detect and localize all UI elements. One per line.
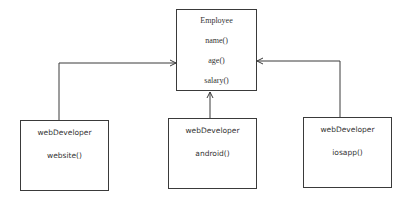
child-method: website() bbox=[21, 151, 108, 160]
child-title: webDeveloper bbox=[304, 125, 391, 134]
employee-class-box: Employee name() age() salary() bbox=[176, 9, 257, 91]
webdeveloper-iosapp-box: webDeveloper iosapp() bbox=[303, 117, 392, 188]
method-salary: salary() bbox=[177, 76, 256, 85]
child-title: webDeveloper bbox=[169, 126, 256, 135]
employee-title: Employee bbox=[177, 16, 256, 25]
webdeveloper-android-box: webDeveloper android() bbox=[168, 118, 257, 189]
method-name: name() bbox=[177, 36, 256, 45]
arrow-iosapp-to-employee bbox=[257, 61, 340, 117]
child-method: android() bbox=[169, 149, 256, 158]
child-title: webDeveloper bbox=[21, 128, 108, 137]
child-method: iosapp() bbox=[304, 148, 391, 157]
webdeveloper-website-box: webDeveloper website() bbox=[20, 120, 109, 191]
arrow-website-to-employee bbox=[59, 63, 176, 120]
method-age: age() bbox=[177, 56, 256, 65]
